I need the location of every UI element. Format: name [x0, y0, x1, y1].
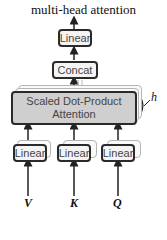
sdpa-label-line1: Scaled Dot-Product [26, 95, 121, 108]
linear-v-block: Linear [13, 144, 47, 162]
concat-block: Concat [52, 61, 98, 79]
input-q-label: Q [113, 196, 122, 211]
linear-q-block: Linear [101, 144, 135, 162]
linear-output-block: Linear [58, 29, 92, 47]
input-v-label: V [24, 196, 32, 211]
linear-k-block: Linear [57, 144, 91, 162]
sdpa-label-line2: Attention [52, 108, 95, 121]
scaled-dot-product-attention-block: Scaled Dot-Product Attention [11, 91, 137, 125]
heads-count-label: h [151, 90, 157, 105]
input-k-label: K [70, 196, 78, 211]
